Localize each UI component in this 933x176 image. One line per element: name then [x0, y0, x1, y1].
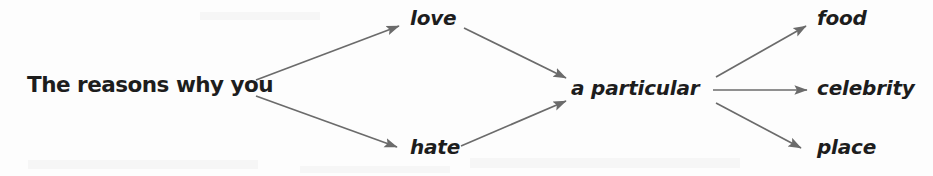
edge-root-to-hate — [256, 96, 397, 147]
edge-hate-to-particular — [461, 101, 566, 146]
edge-particular-to-place — [716, 103, 801, 148]
node-leaf-celebrity: celebrity — [817, 78, 915, 98]
node-branch-hate: hate — [410, 137, 460, 157]
edge-love-to-particular — [464, 28, 566, 78]
node-a-particular: a particular — [571, 78, 699, 98]
node-root: The reasons why you — [27, 74, 273, 96]
node-leaf-place: place — [817, 137, 876, 157]
node-leaf-food: food — [817, 8, 867, 28]
node-branch-love: love — [410, 8, 456, 28]
diagram-canvas: The reasons why you love hate a particul… — [0, 0, 933, 176]
edge-particular-to-food — [716, 26, 806, 77]
edge-root-to-love — [256, 26, 399, 80]
